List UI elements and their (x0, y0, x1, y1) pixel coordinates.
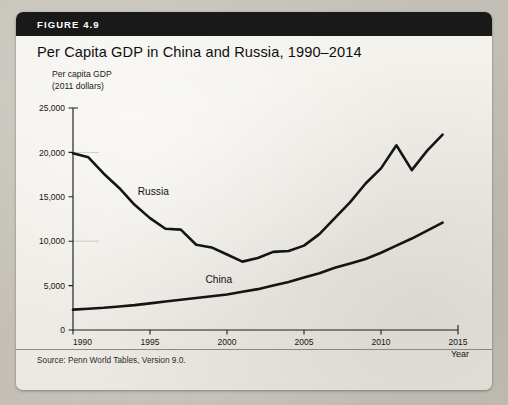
chart-axes (73, 108, 458, 330)
source-note: Source: Penn World Tables, Version 9.0. (37, 355, 186, 365)
y-axis-tick-label: 0 (60, 325, 65, 335)
x-axis-tick-label: 2015 (449, 337, 468, 347)
page-background: FIGURE 4.9 Per Capita GDP in China and R… (0, 0, 508, 405)
chart-area: 05,00010,00015,00020,00025,0001990199520… (16, 12, 492, 390)
line-chart-svg: 05,00010,00015,00020,00025,0001990199520… (16, 12, 492, 390)
series-annotation-china: China (205, 274, 232, 285)
figure-card: FIGURE 4.9 Per Capita GDP in China and R… (16, 12, 492, 390)
y-axis-tick-label: 10,000 (39, 236, 65, 246)
source-divider (16, 349, 492, 350)
series-line-china (73, 223, 443, 310)
y-axis-tick-label: 5,000 (44, 281, 66, 291)
x-axis-tick-label: 2010 (372, 337, 391, 347)
y-axis-tick-label: 25,000 (39, 103, 65, 113)
y-axis-tick-label: 20,000 (39, 148, 65, 158)
series-annotation-russia: Russia (138, 186, 169, 197)
x-axis-tick-label: 2000 (218, 337, 237, 347)
x-axis-tick-label: 1995 (141, 337, 160, 347)
x-axis-tick-label: 1990 (73, 337, 92, 347)
y-axis-tick-label: 15,000 (39, 192, 65, 202)
x-axis-tick-label: 2005 (295, 337, 314, 347)
x-axis-title: Year (451, 349, 469, 359)
series-line-russia (73, 135, 443, 262)
